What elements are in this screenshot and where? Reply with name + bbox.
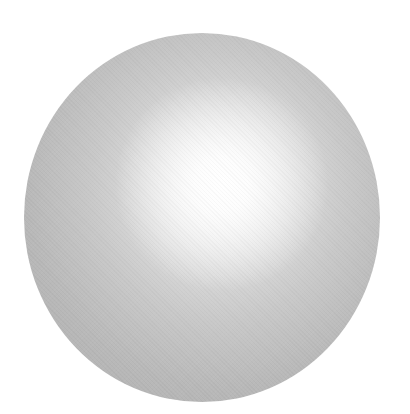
gray-sphere bbox=[24, 33, 380, 402]
image-canvas bbox=[0, 0, 410, 414]
